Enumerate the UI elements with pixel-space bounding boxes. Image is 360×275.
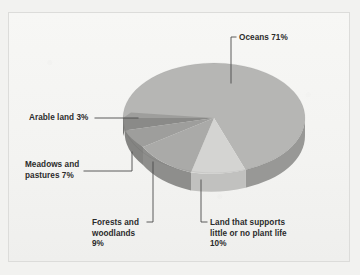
label-arable-land: Arable land 3%	[29, 113, 88, 124]
label-forests-line1: Forests and	[92, 218, 139, 229]
label-oceans: Oceans 71%	[239, 33, 288, 44]
label-barren-land: Land that supports little or no plant li…	[210, 218, 287, 250]
pie-chart-svg	[0, 0, 360, 275]
label-arable-land-text: Arable land 3%	[29, 113, 88, 124]
label-forests-line3: 9%	[92, 239, 139, 250]
label-forests-line2: woodlands	[92, 229, 139, 240]
label-meadows-line1: Meadows and	[25, 160, 79, 171]
label-meadows-line2: pastures 7%	[25, 171, 79, 182]
label-oceans-text: Oceans 71%	[239, 33, 288, 44]
label-forests-woodlands: Forests and woodlands 9%	[92, 218, 139, 250]
label-barren-line1: Land that supports	[210, 218, 287, 229]
leader-line-meadows	[84, 152, 132, 171]
label-barren-line2: little or no plant life	[210, 229, 287, 240]
label-meadows-pastures: Meadows and pastures 7%	[25, 160, 79, 181]
label-barren-line3: 10%	[210, 239, 287, 250]
